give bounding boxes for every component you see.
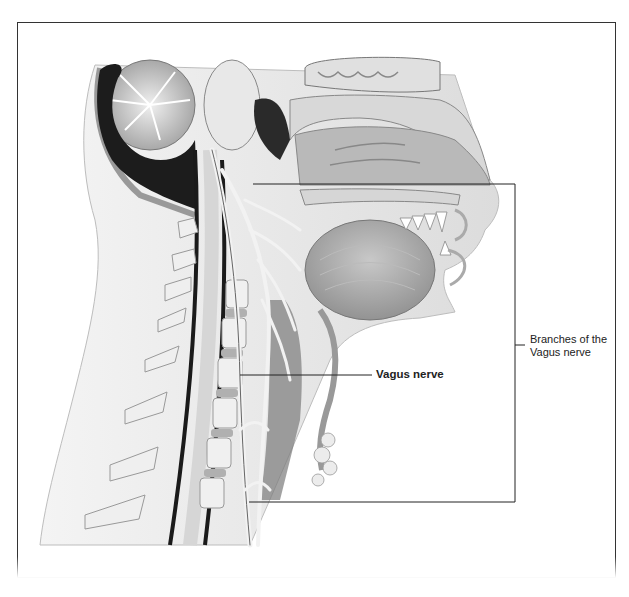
branches-label-line1: Branches of the <box>530 333 607 346</box>
pons <box>204 60 260 150</box>
vagus-nerve-label: Vagus nerve <box>376 368 444 381</box>
cerebrum <box>305 57 440 92</box>
branches-label: Branches of the Vagus nerve <box>530 333 607 359</box>
tongue <box>305 220 435 320</box>
anatomy-illustration <box>0 0 629 597</box>
branches-label-line2: Vagus nerve <box>530 346 607 359</box>
